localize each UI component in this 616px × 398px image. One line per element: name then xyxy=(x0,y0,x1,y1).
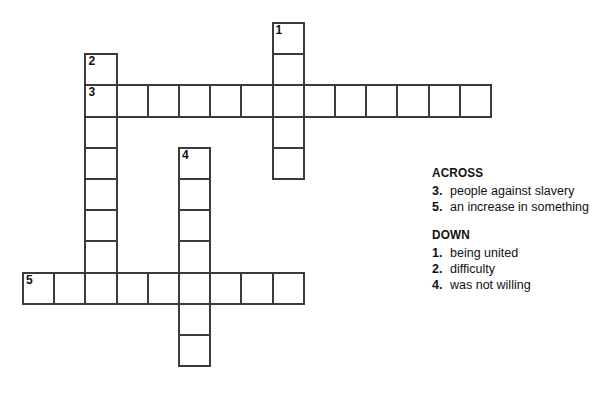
crossword-cell[interactable]: 2 xyxy=(84,53,117,86)
crossword-cell[interactable] xyxy=(178,178,211,211)
crossword-grid[interactable]: 12345 xyxy=(0,0,420,398)
clue-text: people against slavery xyxy=(450,183,574,199)
clues-across-heading: ACROSS xyxy=(432,166,603,181)
crossword-cell[interactable] xyxy=(178,209,211,242)
cell-number: 4 xyxy=(182,149,188,162)
crossword-cell[interactable] xyxy=(147,84,180,117)
crossword-cell[interactable] xyxy=(209,84,242,117)
cell-number: 3 xyxy=(88,86,94,99)
crossword-cell[interactable] xyxy=(272,84,305,117)
crossword-cell[interactable] xyxy=(116,84,149,117)
clues-down-heading: DOWN xyxy=(432,228,603,243)
crossword-cell[interactable]: 4 xyxy=(178,147,211,180)
clue-item[interactable]: 4.was not willing xyxy=(432,277,614,293)
crossword-cell[interactable] xyxy=(240,272,273,305)
clue-number: 1. xyxy=(432,245,450,261)
clue-text: an increase in something xyxy=(450,199,589,215)
crossword-cell[interactable] xyxy=(84,116,117,149)
crossword-cell[interactable] xyxy=(272,272,305,305)
crossword-cell[interactable] xyxy=(365,84,398,117)
crossword-cell[interactable] xyxy=(209,272,242,305)
crossword-cell[interactable] xyxy=(396,84,429,117)
crossword-cell[interactable] xyxy=(53,272,86,305)
crossword-cell[interactable]: 3 xyxy=(84,84,117,117)
cell-number: 2 xyxy=(88,55,94,68)
clue-text: difficulty xyxy=(450,261,495,277)
crossword-cell[interactable] xyxy=(84,240,117,273)
crossword-cell[interactable] xyxy=(84,272,117,305)
clue-number: 5. xyxy=(432,199,450,215)
crossword-cell[interactable] xyxy=(272,53,305,86)
crossword-cell[interactable] xyxy=(334,84,367,117)
crossword-cell[interactable] xyxy=(178,240,211,273)
crossword-cell[interactable] xyxy=(178,303,211,336)
cell-number: 1 xyxy=(276,24,282,37)
clue-group-across: ACROSS 3.people against slavery5.an incr… xyxy=(432,166,614,215)
crossword-cell[interactable]: 1 xyxy=(272,22,305,55)
clue-number: 3. xyxy=(432,183,450,199)
clue-item[interactable]: 1.being united xyxy=(432,245,614,261)
crossword-cell[interactable] xyxy=(84,147,117,180)
crossword-cell[interactable] xyxy=(303,84,336,117)
crossword-cell[interactable] xyxy=(178,272,211,305)
cell-number: 5 xyxy=(26,274,32,287)
crossword-cell[interactable] xyxy=(116,272,149,305)
crossword-cell[interactable] xyxy=(272,147,305,180)
crossword-cell[interactable] xyxy=(178,334,211,367)
clue-item[interactable]: 3.people against slavery xyxy=(432,183,614,199)
clue-item[interactable]: 2.difficulty xyxy=(432,261,614,277)
crossword-cell[interactable] xyxy=(84,209,117,242)
crossword-cell[interactable] xyxy=(147,272,180,305)
clue-number: 2. xyxy=(432,261,450,277)
crossword-cell[interactable] xyxy=(428,84,461,117)
clue-number: 4. xyxy=(432,277,450,293)
crossword-cell[interactable] xyxy=(459,84,492,117)
clue-item[interactable]: 5.an increase in something xyxy=(432,199,614,215)
clue-text: being united xyxy=(450,245,518,261)
clue-panel: ACROSS 3.people against slavery5.an incr… xyxy=(432,166,614,293)
clues-across-list: 3.people against slavery5.an increase in… xyxy=(432,183,614,215)
crossword-cell[interactable]: 5 xyxy=(22,272,55,305)
crossword-cell[interactable] xyxy=(272,116,305,149)
clue-group-down: DOWN 1.being united2.difficulty4.was not… xyxy=(432,228,614,293)
crossword-cell[interactable] xyxy=(178,84,211,117)
clues-down-list: 1.being united2.difficulty4.was not will… xyxy=(432,245,614,293)
crossword-cell[interactable] xyxy=(84,178,117,211)
crossword-cell[interactable] xyxy=(240,84,273,117)
clue-text: was not willing xyxy=(450,277,531,293)
